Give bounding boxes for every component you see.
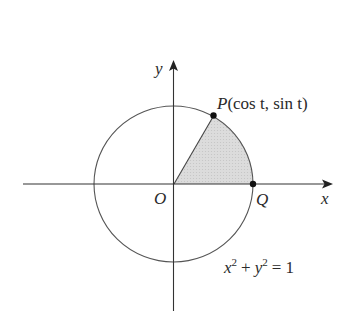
y-axis-label: y	[153, 59, 163, 78]
eq-rhs: = 1	[272, 258, 294, 277]
unit-circle-diagram: y x O Q P(cos t, sin t) x2+y2= 1	[0, 0, 357, 325]
eq-plus: +	[241, 258, 251, 277]
point-q	[250, 181, 256, 187]
origin-label: O	[154, 189, 166, 208]
eq-exp-y: 2	[262, 256, 268, 268]
p-label-coords: (cos t, sin t)	[227, 94, 307, 113]
x-axis-label: x	[320, 189, 329, 208]
point-p	[210, 112, 216, 118]
p-label: P(cos t, sin t)	[216, 94, 308, 113]
q-label: Q	[256, 190, 268, 209]
shaded-sector	[174, 116, 253, 184]
eq-y: y	[253, 258, 263, 277]
circle-equation: x2+y2= 1	[223, 256, 294, 277]
p-label-name: P	[216, 94, 227, 113]
eq-exp-x: 2	[232, 256, 238, 268]
